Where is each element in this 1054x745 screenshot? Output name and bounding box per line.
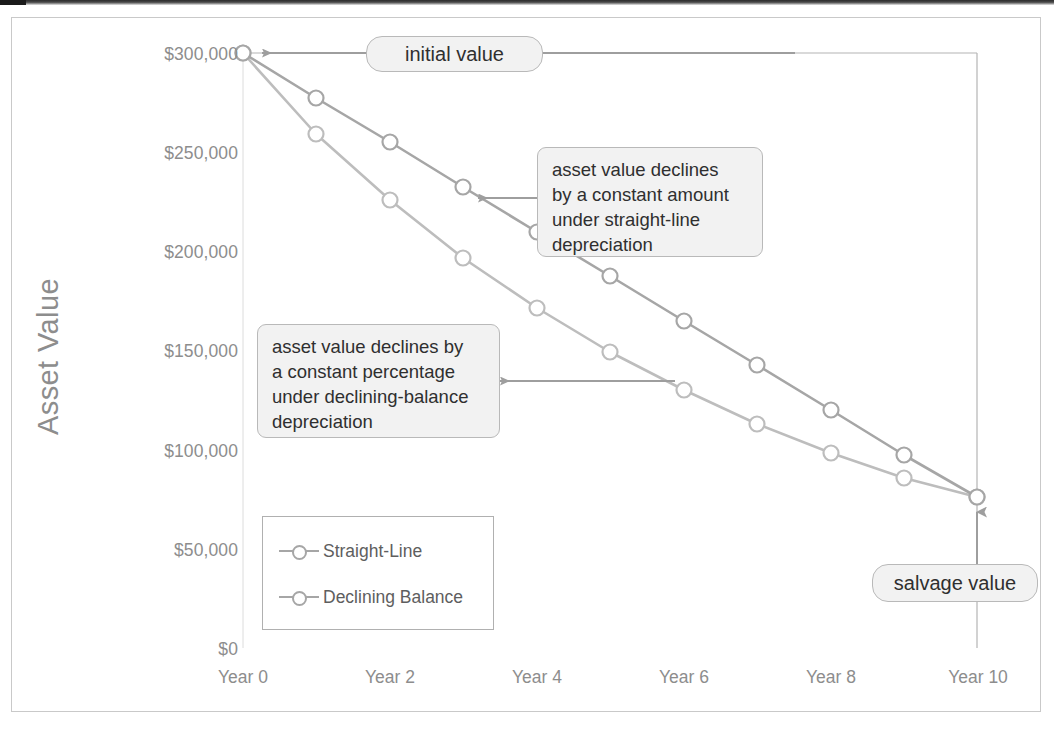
- legend-marker-straight-line-icon: [279, 544, 319, 558]
- y-tick-200000: $200,000: [120, 242, 238, 263]
- annotation-salvage-value: salvage value: [872, 564, 1038, 602]
- legend-marker-declining-balance-icon: [279, 590, 319, 604]
- x-tick-year-8: Year 8: [771, 667, 891, 688]
- x-tick-year-2: Year 2: [330, 667, 450, 688]
- annotation-initial-value: initial value: [366, 36, 543, 72]
- x-tick-year-10: Year 10: [918, 667, 1038, 688]
- x-tick-year-0: Year 0: [183, 667, 303, 688]
- legend-label-straight-line: Straight-Line: [323, 541, 422, 562]
- legend-label-declining-balance: Declining Balance: [323, 587, 463, 608]
- legend-item-straight-line[interactable]: Straight-Line: [279, 538, 422, 564]
- y-tick-250000: $250,000: [120, 143, 238, 164]
- y-axis-title: Asset Value: [32, 247, 65, 467]
- x-tick-year-4: Year 4: [477, 667, 597, 688]
- y-tick-100000: $100,000: [120, 441, 238, 462]
- annotation-straight-line-note: asset value declines by a constant amoun…: [537, 147, 763, 257]
- legend-item-declining-balance[interactable]: Declining Balance: [279, 584, 463, 610]
- y-tick-150000: $150,000: [120, 341, 238, 362]
- y-tick-300000: $300,000: [120, 44, 238, 65]
- annotation-declining-balance-note: asset value declines by a constant perce…: [257, 324, 500, 438]
- chart-legend[interactable]: Straight-Line Declining Balance: [262, 516, 494, 630]
- y-tick-50000: $50,000: [120, 540, 238, 561]
- y-tick-0: $0: [120, 639, 238, 660]
- x-tick-year-6: Year 6: [624, 667, 744, 688]
